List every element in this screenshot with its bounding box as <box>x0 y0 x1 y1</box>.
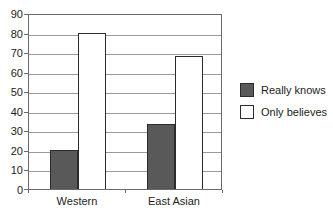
category-label: Western <box>57 195 98 207</box>
y-tick-label: 20 <box>0 145 23 158</box>
bar-east-asian-only-believes <box>175 56 203 189</box>
y-tick-label: 70 <box>0 47 23 60</box>
x-axis-tick <box>28 190 29 193</box>
legend-item-really-knows: Really knows <box>240 83 327 97</box>
y-tick-label: 60 <box>0 67 23 80</box>
y-axis-tick <box>24 92 28 93</box>
y-tick-label: 40 <box>0 106 23 119</box>
y-axis-tick <box>24 34 28 35</box>
legend-item-only-believes: Only believes <box>240 105 327 119</box>
gridline <box>29 35 221 36</box>
y-tick-label: 80 <box>0 28 23 41</box>
y-axis-tick <box>24 151 28 152</box>
y-tick-label: 90 <box>0 8 23 21</box>
y-axis-tick <box>24 131 28 132</box>
legend-label: Only believes <box>261 106 327 118</box>
category-label: East Asian <box>148 195 200 207</box>
plot-area <box>28 14 222 190</box>
really-knows-swatch-icon <box>240 83 254 97</box>
y-axis-tick <box>24 170 28 171</box>
y-tick-label: 50 <box>0 86 23 99</box>
y-axis-tick <box>24 112 28 113</box>
only-believes-swatch-icon <box>240 105 254 119</box>
bar-western-only-believes <box>78 33 106 189</box>
y-tick-label: 10 <box>0 164 23 177</box>
y-axis-tick <box>24 53 28 54</box>
legend-label: Really knows <box>261 84 326 96</box>
legend: Really knows Only believes <box>240 83 327 127</box>
gridline <box>29 54 221 55</box>
y-axis-tick <box>24 14 28 15</box>
bar-western-really-knows <box>50 150 78 189</box>
bar-chart: 0102030405060708090 WesternEast Asian Re… <box>0 0 333 221</box>
y-tick-label: 30 <box>0 125 23 138</box>
y-axis-tick <box>24 73 28 74</box>
y-tick-label: 0 <box>0 184 23 197</box>
x-axis-tick <box>125 190 126 193</box>
bar-east-asian-really-knows <box>147 124 175 189</box>
x-axis-tick <box>222 190 223 193</box>
